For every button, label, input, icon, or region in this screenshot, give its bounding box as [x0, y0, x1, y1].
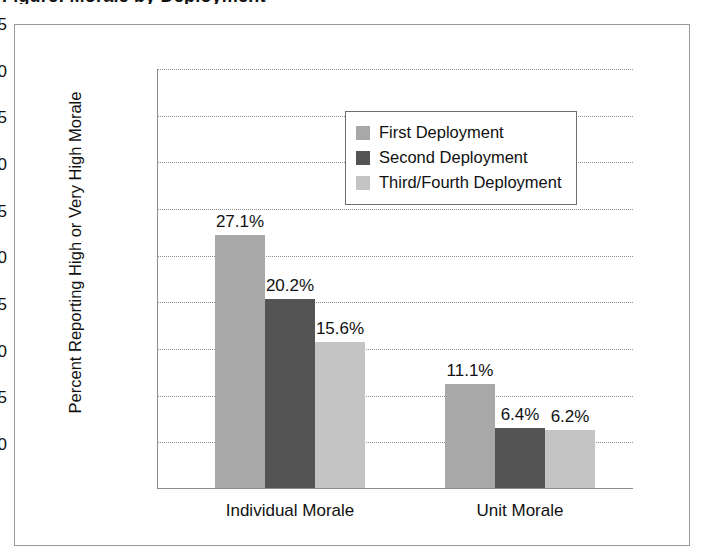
bar-value-label: 20.2% — [266, 276, 314, 296]
y-tick-label: 10 — [0, 342, 7, 362]
bar — [315, 342, 365, 488]
x-category-label: Individual Morale — [226, 501, 355, 521]
gridline — [158, 209, 633, 210]
y-tick-label: 20 — [0, 248, 7, 268]
bar-value-label: 6.2% — [551, 407, 590, 427]
y-tick-label: 25 — [0, 202, 7, 222]
bar — [495, 428, 545, 488]
y-tick-label: 35 — [0, 108, 7, 128]
legend-swatch-icon — [356, 151, 370, 165]
y-tick-label: 45 — [0, 15, 7, 35]
legend-label: First Deployment — [379, 123, 504, 142]
figure-frame: Percent Reporting High or Very High Mora… — [14, 24, 690, 546]
x-category-label: Unit Morale — [477, 501, 564, 521]
bar-value-label: 11.1% — [447, 361, 494, 381]
y-tick-label: 15 — [0, 295, 7, 315]
legend-item: Second Deployment — [356, 145, 562, 170]
legend-item: Third/Fourth Deployment — [356, 170, 562, 195]
y-axis-title: Percent Reporting High or Very High Mora… — [66, 43, 85, 463]
legend-label: Third/Fourth Deployment — [379, 173, 562, 192]
bar-value-label: 15.6% — [316, 319, 364, 339]
legend-label: Second Deployment — [379, 148, 528, 167]
bar-value-label: 6.4% — [501, 405, 540, 425]
legend-item: First Deployment — [356, 120, 562, 145]
legend: First DeploymentSecond DeploymentThird/F… — [345, 111, 577, 205]
gridline — [158, 69, 633, 70]
bar — [445, 384, 495, 488]
y-axis-line — [157, 69, 158, 489]
y-tick-label: 0 — [0, 435, 7, 455]
bar — [545, 430, 595, 488]
bar — [265, 299, 315, 488]
y-tick-label: 40 — [0, 62, 7, 82]
figure-title-cutoff: Figure: Morale by Deployment — [0, 0, 704, 4]
y-axis-tick-labels: 051015202530354045 — [0, 25, 7, 445]
bar — [215, 235, 265, 488]
legend-swatch-icon — [356, 176, 370, 190]
y-tick-label: 30 — [0, 155, 7, 175]
legend-swatch-icon — [356, 126, 370, 140]
bar-value-label: 27.1% — [216, 212, 264, 232]
y-tick-label: 5 — [0, 388, 7, 408]
